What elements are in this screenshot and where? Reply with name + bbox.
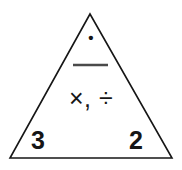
operations-label: ×, ÷ <box>0 86 182 111</box>
apex-dot-icon: • <box>0 30 182 45</box>
bottom-left-number: 3 <box>31 128 45 153</box>
bottom-right-number: 2 <box>129 128 143 153</box>
fact-triangle-card: • ×, ÷ 3 2 <box>0 0 182 170</box>
